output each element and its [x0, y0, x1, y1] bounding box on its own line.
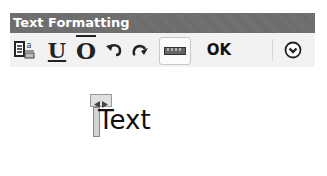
text-formatting-title-bar[interactable]: Text Formatting	[10, 13, 315, 33]
ruler-icon	[164, 46, 186, 56]
ruler-button[interactable]	[159, 37, 191, 65]
overline-button[interactable]: O	[74, 38, 98, 62]
underline-button[interactable]: U	[46, 38, 68, 62]
options-button[interactable]	[280, 38, 306, 62]
undo-button[interactable]	[105, 38, 125, 62]
undo-icon	[106, 43, 124, 57]
editor-text[interactable]: Text	[98, 105, 151, 135]
toolbar-separator	[272, 39, 273, 61]
redo-button[interactable]	[130, 38, 150, 62]
overline-icon: O	[76, 37, 96, 64]
stack-format-icon: a	[14, 40, 36, 60]
ok-label: OK	[207, 41, 231, 59]
svg-text:a: a	[27, 41, 32, 50]
redo-icon	[131, 43, 149, 57]
window-title: Text Formatting	[13, 15, 130, 30]
stack-button[interactable]: a	[12, 38, 38, 62]
options-chevron-icon	[284, 41, 302, 59]
text-formatting-toolbar: a U O OK	[10, 33, 315, 67]
ok-button[interactable]: OK	[202, 38, 236, 62]
underline-icon: U	[48, 38, 66, 63]
